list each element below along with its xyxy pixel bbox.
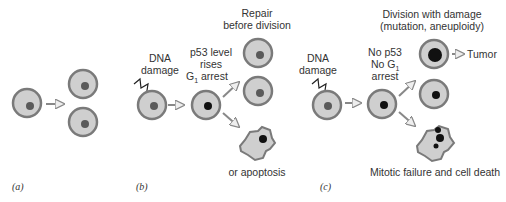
panel-a: (a)	[12, 70, 97, 193]
repaired-cell	[244, 39, 272, 67]
p53-cell-cycle-diagram: (a) DNA damage p53 level rises G1 arrest…	[0, 0, 506, 202]
tumor-label: Tumor	[467, 48, 497, 60]
aneuploid-cell	[420, 80, 448, 108]
dna-damage-label: damage	[299, 64, 337, 76]
division-damage-label: Division with damage	[382, 8, 481, 20]
dna-damage-label: damage	[141, 64, 179, 76]
panel-label-b: (b)	[136, 181, 148, 193]
repair-label: before division	[223, 19, 291, 31]
no-p53-label: No p53	[368, 46, 402, 58]
panel-label-a: (a)	[12, 181, 24, 193]
arrow-icon	[399, 112, 415, 126]
dna-damage-label: DNA	[149, 52, 171, 64]
arrow-icon	[223, 82, 239, 97]
repaired-cell	[244, 77, 272, 105]
arrest-label: arrest	[372, 70, 399, 82]
g1-arrest-label: G1 arrest	[186, 70, 228, 84]
arrow-icon	[399, 81, 415, 96]
apoptosis-label: or apoptosis	[228, 166, 285, 178]
repair-label: Repair	[242, 7, 273, 19]
p53-rises-label: rises	[200, 58, 222, 70]
panel-label-c: (c)	[320, 181, 332, 193]
panel-b: DNA damage p53 level rises G1 arrest Rep…	[134, 7, 291, 193]
cell	[13, 89, 41, 117]
cell-death-label: Mitotic failure and cell death	[370, 166, 500, 178]
dna-damage-label: DNA	[307, 52, 329, 64]
daughter-cell	[69, 70, 97, 98]
panel-c: DNA damage No p53 No G1 arrest Division …	[299, 8, 500, 193]
tumor-cell	[420, 40, 448, 68]
damaged-cell	[138, 91, 166, 119]
dying-cell	[417, 126, 454, 161]
arrow-icon	[223, 113, 239, 127]
damaged-cell	[313, 91, 341, 119]
daughter-cell	[69, 108, 97, 136]
arrested-cell	[192, 91, 220, 119]
apoptotic-cell	[240, 127, 275, 160]
unarrested-cell	[368, 90, 396, 118]
p53-rises-label: p53 level	[190, 46, 232, 58]
division-damage-label: (mutation, aneuploidy)	[380, 20, 484, 32]
